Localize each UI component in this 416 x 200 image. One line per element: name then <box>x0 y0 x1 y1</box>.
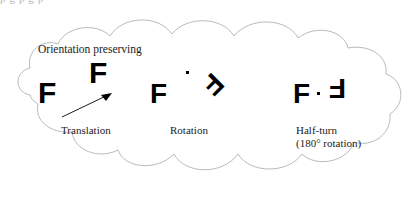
translation-source-glyph: F <box>38 78 56 108</box>
half-turn-caption: Half-turn <box>296 124 337 137</box>
translation-image-glyph: F <box>89 58 107 88</box>
half-turn-image-glyph: F <box>329 74 346 102</box>
rotation-center-dot <box>186 71 189 74</box>
translation-caption: Translation <box>61 124 111 137</box>
half-turn-caption-secondary: (180° rotation) <box>296 137 361 150</box>
rotation-source-glyph: F <box>150 80 167 108</box>
translation-vector-arrow-icon <box>60 88 118 120</box>
panel-group-heading: Orientation preserving <box>38 43 142 55</box>
figure-canvas: p g p g p Orientation preserving F F Tra… <box>0 0 416 200</box>
half-turn-source-glyph: F <box>293 80 310 108</box>
half-turn-center-dot <box>317 92 320 95</box>
rotation-caption: Rotation <box>170 124 208 137</box>
